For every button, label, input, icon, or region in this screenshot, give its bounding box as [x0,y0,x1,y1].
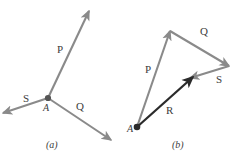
panel-a-vectors [3,11,111,140]
point-label-b-A: A [127,124,133,134]
point-label-a-A: A [43,103,49,113]
caption-b: (b) [172,140,184,150]
label-a-P: P [57,44,63,55]
label-b-R: R [166,105,174,116]
vector-a-P [48,11,89,98]
caption-a: (a) [46,140,58,150]
origin-dot-a [45,95,51,101]
label-a-Q: Q [76,101,84,112]
origin-dot-b [134,124,141,131]
vector-diagram-canvas [0,0,236,156]
label-b-Q: Q [200,26,208,37]
label-b-P: P [145,64,151,75]
label-b-S: S [216,74,222,85]
vector-b-S [190,66,229,78]
panel-b-vectors [134,31,229,130]
vector-addition-figure: P Q S A (a) P Q S R A (b) [0,0,236,156]
label-a-S: S [23,93,29,104]
